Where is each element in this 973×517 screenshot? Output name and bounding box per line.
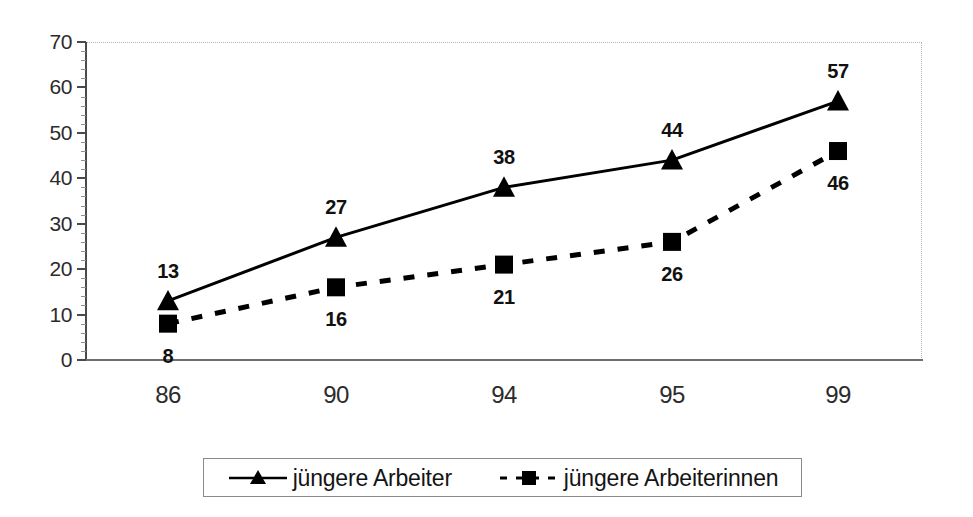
data-point-label: 8 [133,346,203,366]
y-axis-tick [77,132,86,134]
y-axis-minor-tick [81,287,86,288]
data-point-label: 27 [301,197,371,217]
x-axis-label: 99 [798,381,878,409]
y-axis-minor-tick [81,60,86,61]
triangle-marker-icon [227,467,289,489]
x-axis-label: 95 [632,381,712,409]
y-axis-minor-tick [81,51,86,52]
y-axis-label: 70 [28,31,72,52]
y-axis-label: 40 [28,167,72,188]
y-axis-minor-tick [81,142,86,143]
data-point-label: 38 [469,147,539,167]
y-axis-minor-tick [81,251,86,252]
y-axis-minor-tick [81,351,86,352]
y-axis-minor-tick [81,97,86,98]
y-axis-tick [77,268,86,270]
data-point-label: 16 [301,309,371,329]
legend-label: jüngere Arbeiterinnen [564,465,778,491]
y-axis-minor-tick [81,215,86,216]
y-axis-tick [77,359,86,361]
y-axis-minor-tick [81,305,86,306]
legend: jüngere Arbeiter jüngere Arbeiterinnen [203,458,802,497]
y-axis-minor-tick [81,196,86,197]
y-axis-minor-tick [81,278,86,279]
y-axis-minor-tick [81,187,86,188]
y-axis-tick [77,177,86,179]
y-axis-tick [77,41,86,43]
y-axis-minor-tick [81,69,86,70]
y-axis-minor-tick [81,115,86,116]
y-axis-minor-tick [81,342,86,343]
y-axis-label: 0 [28,349,72,370]
y-axis-label: 50 [28,122,72,143]
x-axis-line [85,359,923,361]
data-point-label: 26 [637,264,707,284]
y-axis-label: 20 [28,258,72,279]
legend-item-juengere-arbeiter[interactable]: jüngere Arbeiter [227,465,452,491]
legend-label: jüngere Arbeiter [293,465,452,491]
y-axis-tick [77,314,86,316]
y-axis-minor-tick [81,106,86,107]
data-point-label: 46 [803,173,873,193]
data-point-label: 57 [803,61,873,81]
legend-item-juengere-arbeiterinnen[interactable]: jüngere Arbeiterinnen [498,465,778,491]
data-point-label: 21 [469,287,539,307]
y-axis-minor-tick [81,151,86,152]
y-axis-minor-tick [81,324,86,325]
y-axis-minor-tick [81,242,86,243]
y-axis-minor-tick [81,124,86,125]
x-axis-label: 90 [296,381,376,409]
y-axis-minor-tick [81,160,86,161]
y-axis-minor-tick [81,78,86,79]
y-axis-minor-tick [81,333,86,334]
y-axis-tick [77,223,86,225]
y-axis-minor-tick [81,206,86,207]
y-axis-label: 10 [28,304,72,325]
line-chart: 010203040506070 8690949599 1327384457816… [0,0,973,517]
y-axis-minor-tick [81,296,86,297]
y-axis-label: 30 [28,213,72,234]
y-axis-tick [77,86,86,88]
x-axis-label: 86 [128,381,208,409]
data-point-label: 13 [133,261,203,281]
square-marker-icon [498,467,560,489]
plot-area [85,42,922,360]
y-axis-minor-tick [81,233,86,234]
y-axis-minor-tick [81,260,86,261]
x-axis-label: 94 [464,381,544,409]
y-axis-minor-tick [81,169,86,170]
data-point-label: 44 [637,120,707,140]
y-axis-label: 60 [28,76,72,97]
